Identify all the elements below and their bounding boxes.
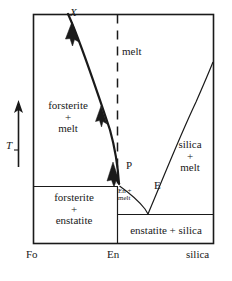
axis-label-temperature: T <box>6 140 12 152</box>
field-label-forsterite-enstatite: forsterite + enstatite <box>36 192 112 227</box>
field-label-enstatite-silica: enstatite + silica <box>122 225 210 237</box>
point-label-eutectic: E <box>154 180 161 192</box>
field-label-enstatite-melt: En + melt <box>118 188 146 203</box>
field-label-silica-melt: silica + melt <box>169 139 211 174</box>
axis-tick-label-fo: Fo <box>26 249 38 261</box>
field-label-melt: melt <box>122 46 142 58</box>
phase-diagram-figure: melt forsterite + melt silica + melt En … <box>0 0 232 281</box>
point-label-bulk-composition: X <box>70 7 77 19</box>
field-label-forsterite-melt: forsterite + melt <box>37 100 99 135</box>
axis-tick-label-silica: silica <box>186 249 209 261</box>
point-label-peritectic: P <box>126 160 132 172</box>
axis-tick-label-en: En <box>107 249 119 261</box>
